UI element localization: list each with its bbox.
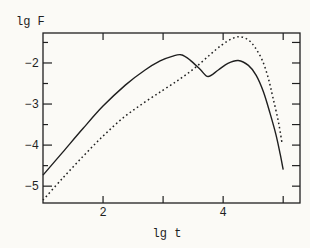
plot-canvas: 24−2−3−4−5 lg F lg t: [0, 0, 310, 248]
solid-curve: [43, 55, 283, 175]
dotted-curve: [43, 37, 282, 200]
y-tick-label: −5: [25, 180, 39, 194]
y-tick-label: −3: [25, 98, 39, 112]
axis-ticks: [43, 33, 300, 203]
x-tick-label: 4: [220, 206, 227, 220]
y-tick-label: −4: [25, 139, 39, 153]
x-tick-label: 2: [99, 206, 106, 220]
y-axis-label: lg F: [16, 15, 45, 29]
x-axis-label: lg t: [153, 227, 182, 241]
axes-frame: [43, 33, 300, 203]
log-log-flux-chart: 24−2−3−4−5 lg F lg t: [0, 0, 310, 248]
axis-tick-labels: 24−2−3−4−5: [25, 57, 227, 220]
y-tick-label: −2: [25, 57, 39, 71]
